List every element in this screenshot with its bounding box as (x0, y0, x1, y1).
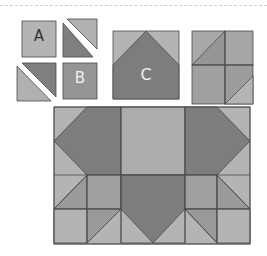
label-a: A (22, 27, 56, 45)
label-b: B (63, 69, 97, 87)
four-patch-unit (192, 31, 253, 104)
hst-pair-bottom (17, 63, 56, 101)
assembled-block (54, 107, 250, 244)
hst-pair-top (63, 19, 97, 57)
label-c: C (113, 65, 179, 84)
